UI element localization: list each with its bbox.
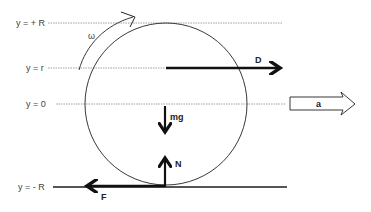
normal-force-label: N (175, 159, 182, 169)
level-label-minus-r: y = - R (18, 182, 45, 192)
drive-force-label: D (255, 55, 262, 65)
omega-arc-icon (79, 17, 133, 70)
diagram-canvas: y = + R y = r y = 0 y = - R ω D mg N F a (0, 0, 371, 212)
level-label-zero: y = 0 (26, 99, 46, 109)
friction-force-label: F (101, 192, 107, 202)
acceleration-arrow-icon (290, 92, 355, 115)
omega-label: ω (88, 31, 95, 41)
omega-arrowhead-icon (121, 12, 135, 27)
level-label-plus-r: y = + R (16, 18, 46, 28)
weight-force-label: mg (170, 112, 184, 122)
level-label-r: y = r (26, 63, 44, 73)
